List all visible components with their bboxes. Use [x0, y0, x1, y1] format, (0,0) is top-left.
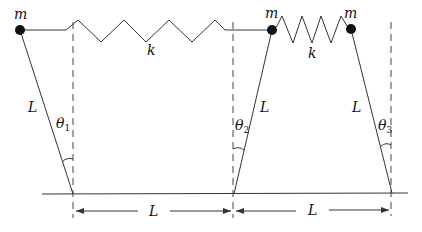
dimension-label-2: L — [307, 202, 317, 218]
spring-2 — [272, 16, 351, 43]
mass-label-3: m — [344, 5, 357, 21]
rod-length-label-3: L — [351, 99, 361, 115]
mass-label-1: m — [14, 6, 27, 22]
mass-2 — [267, 25, 277, 35]
ground-line — [42, 193, 408, 194]
rod-length-label-1: L — [27, 99, 37, 115]
spring-label-2: k — [308, 45, 316, 61]
mass-label-2: m — [265, 5, 278, 21]
angle-arc-3 — [381, 144, 391, 146]
angle-arc-1 — [62, 158, 73, 162]
spring-label-1: k — [147, 42, 155, 58]
dimension-label-1: L — [148, 203, 158, 219]
coupled-pendulum-diagram: m m m k k L L L θ1 θ2 θ3 L L — [0, 0, 422, 232]
rod-length-label-2: L — [259, 99, 269, 115]
mass-1 — [15, 25, 25, 35]
angle-label-1: θ1 — [56, 115, 70, 133]
spring-1 — [20, 20, 272, 42]
mass-3 — [346, 24, 356, 34]
angle-label-2: θ2 — [235, 117, 249, 135]
angle-label-3: θ3 — [378, 117, 392, 135]
angle-arc-2 — [233, 148, 244, 150]
